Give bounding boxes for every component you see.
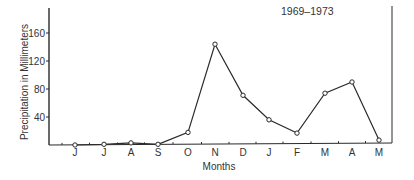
- data-point-marker: [241, 93, 245, 97]
- x-tick-label: J: [267, 147, 272, 158]
- data-point-marker: [186, 130, 190, 134]
- data-point-marker: [73, 143, 77, 147]
- x-tick-label: S: [155, 147, 162, 158]
- data-point-marker: [156, 142, 160, 146]
- x-tick-label: D: [239, 147, 246, 158]
- series-line: [75, 44, 379, 145]
- data-point-marker: [295, 131, 299, 135]
- y-axis-title: Precipitation in Millimeters: [19, 24, 30, 140]
- data-point-marker: [323, 91, 327, 95]
- y-tick-label: 40: [34, 112, 46, 123]
- chart-title: 1969–1973: [281, 5, 334, 17]
- x-axis-title: Months: [203, 161, 236, 172]
- data-point-marker: [350, 80, 354, 84]
- x-tick-label: A: [128, 147, 135, 158]
- data-point-marker: [213, 42, 217, 46]
- x-tick-label: J: [73, 147, 78, 158]
- data-point-marker: [267, 118, 271, 122]
- x-tick-label: J: [102, 147, 107, 158]
- y-tick-label: 120: [28, 56, 45, 67]
- x-tick-label: F: [294, 147, 300, 158]
- data-point-marker: [377, 138, 381, 142]
- x-tick-label: M: [375, 147, 383, 158]
- precipitation-chart: 4080120160 JJASONDJFMAM 1969–1973 Months…: [0, 0, 414, 180]
- y-tick-label: 160: [28, 28, 45, 39]
- x-tick-label: N: [211, 147, 218, 158]
- data-series: [73, 42, 381, 147]
- y-tick-label: 80: [34, 84, 46, 95]
- data-point-marker: [129, 141, 133, 145]
- y-axis-ticks: 4080120160: [28, 28, 49, 123]
- data-point-marker: [102, 142, 106, 146]
- x-tick-label: M: [321, 147, 329, 158]
- x-tick-label: O: [184, 147, 192, 158]
- chart-axes: [49, 6, 392, 145]
- x-tick-label: A: [349, 147, 356, 158]
